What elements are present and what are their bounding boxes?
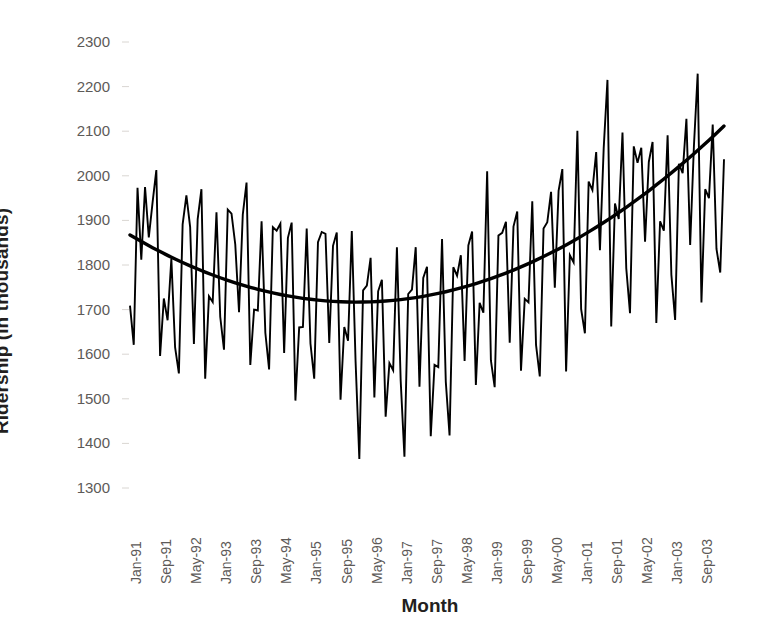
ridership-data-line — [130, 74, 724, 459]
plot-area — [0, 0, 764, 642]
x-axis-title: Month — [110, 595, 750, 625]
axis-tickmarks — [122, 42, 129, 488]
ridership-chart: Ridership (in thousands) 230022002100200… — [0, 0, 764, 642]
